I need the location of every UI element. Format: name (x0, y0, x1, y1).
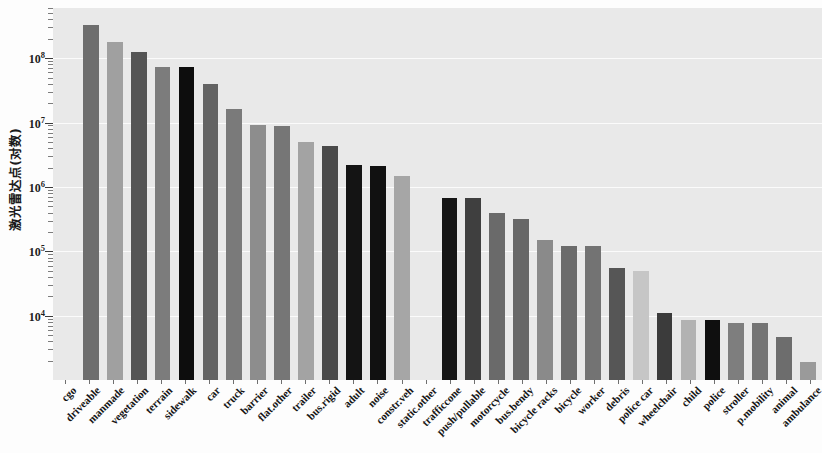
bar-slot-noise (366, 8, 390, 380)
bar-slot-terrain (151, 8, 175, 380)
bar-slot-barrier (246, 8, 270, 380)
bar-slot-police (700, 8, 724, 380)
y-tick-major (45, 58, 53, 59)
bar-slot-flat-other (270, 8, 294, 380)
bar-slot-constr-veh (390, 8, 414, 380)
bar-slot-sidewalk (175, 8, 199, 380)
bar-car (203, 84, 219, 380)
x-tick-label-adult: adult (341, 384, 367, 410)
bar-series (53, 8, 822, 380)
bar-truck (226, 109, 242, 381)
bar-noise (370, 166, 386, 380)
bar-slot-child (677, 8, 701, 380)
y-tick-major (45, 251, 53, 252)
bar-slot-wheelchair (653, 8, 677, 380)
bar-adult (346, 165, 362, 380)
y-tick-major (45, 123, 53, 124)
x-tick-label-child: child (678, 384, 703, 409)
bar-vegetation (131, 52, 147, 380)
bar-slot-truck (222, 8, 246, 380)
bar-ambulance (800, 362, 816, 380)
bar-slot-animal (772, 8, 796, 380)
bar-slot-static-other (414, 8, 438, 380)
bar-police (705, 320, 721, 380)
bar-animal (776, 337, 792, 380)
bar-slot-cgo (55, 8, 79, 380)
bar-slot-bus-rigid (318, 8, 342, 380)
bar-slot-bicycle (557, 8, 581, 380)
bar-motorcycle (489, 213, 505, 380)
y-tick-label-1e6: 106 (29, 178, 45, 195)
bar-push-pullable (465, 198, 481, 380)
bar-trailer (298, 142, 314, 380)
x-axis-tick-labels: cgodriveablemanmadevegetationterrainside… (53, 384, 822, 453)
bar-p-mobility (752, 323, 768, 380)
lidar-points-bar-chart: 激光雷达点(对数) 108107106105104 cgodriveablema… (0, 0, 822, 453)
bar-wheelchair (657, 313, 673, 380)
bar-police-car (633, 271, 649, 380)
bar-slot-push-pullable (461, 8, 485, 380)
bar-slot-worker (581, 8, 605, 380)
bar-flat-other (274, 126, 290, 380)
bar-slot-car (198, 8, 222, 380)
bar-slot-bicycle-racks (533, 8, 557, 380)
bar-bicycle (561, 246, 577, 380)
bar-stroller (728, 323, 744, 380)
bar-slot-bus-bendy (509, 8, 533, 380)
y-tick-label-1e5: 105 (29, 243, 45, 260)
bar-worker (585, 246, 601, 380)
bar-slot-motorcycle (485, 8, 509, 380)
bar-slot-trafficcone (438, 8, 462, 380)
bar-slot-debris (605, 8, 629, 380)
bar-bus-rigid (322, 146, 338, 380)
bar-child (681, 320, 697, 380)
plot-area (53, 8, 822, 380)
bar-slot-police-car (629, 8, 653, 380)
bar-driveable (83, 25, 99, 380)
y-tick-major (45, 187, 53, 188)
bar-slot-manmade (103, 8, 127, 380)
bar-bicycle-racks (537, 240, 553, 380)
bar-manmade (107, 42, 123, 380)
y-tick-label-1e8: 108 (29, 50, 45, 67)
bar-barrier (250, 125, 266, 381)
y-tick-label-1e7: 107 (29, 114, 45, 131)
y-axis-tick-layer: 108107106105104 (0, 0, 53, 388)
bar-slot-trailer (294, 8, 318, 380)
bar-slot-driveable (79, 8, 103, 380)
bar-debris (609, 268, 625, 380)
y-tick-major (45, 316, 53, 317)
bar-terrain (155, 67, 171, 380)
bar-slot-adult (342, 8, 366, 380)
bar-constr-veh (394, 176, 410, 381)
y-tick-label-1e4: 104 (29, 307, 45, 324)
bar-slot-vegetation (127, 8, 151, 380)
bar-trafficcone (442, 198, 458, 380)
bar-slot-p-mobility (748, 8, 772, 380)
bar-slot-ambulance (796, 8, 820, 380)
bar-sidewalk (179, 67, 195, 380)
bar-slot-stroller (724, 8, 748, 380)
bar-bus-bendy (513, 219, 529, 380)
